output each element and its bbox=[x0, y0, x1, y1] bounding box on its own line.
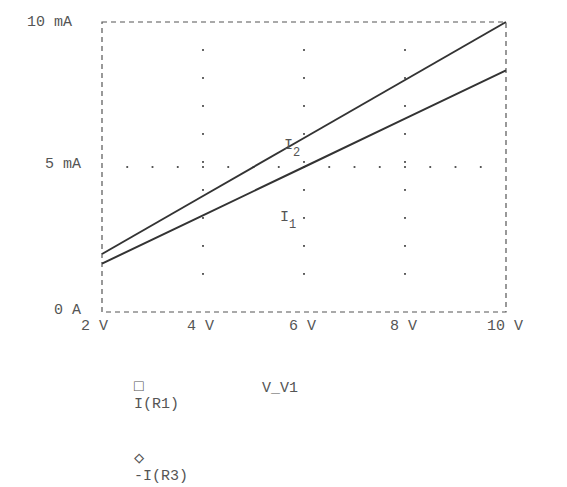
series-lines bbox=[102, 22, 506, 264]
grid-dot bbox=[404, 133, 406, 135]
grid-dot bbox=[303, 217, 305, 219]
grid-dot bbox=[404, 189, 406, 191]
legend-item-i-r1[interactable]: □ I(R1) bbox=[98, 379, 179, 430]
square-marker-icon: □ bbox=[134, 378, 144, 396]
grid-dot bbox=[303, 105, 305, 107]
grid-dot bbox=[354, 166, 356, 168]
grid-dot bbox=[303, 77, 305, 79]
grid-dot bbox=[303, 245, 305, 247]
series-line-i-r1 bbox=[102, 70, 506, 263]
grid-dot bbox=[404, 217, 406, 219]
grid-dot bbox=[202, 105, 204, 107]
grid-dot bbox=[202, 49, 204, 51]
diamond-marker-icon: ◇ bbox=[134, 449, 144, 468]
grid-dot bbox=[227, 166, 229, 168]
grid-dot bbox=[429, 166, 431, 168]
grid-dots bbox=[126, 49, 481, 275]
y-tick-label-10ma: 10 mA bbox=[27, 14, 72, 31]
grid-dot bbox=[278, 166, 280, 168]
legend-label-i-r1: I(R1) bbox=[134, 396, 179, 413]
grid-dot bbox=[303, 133, 305, 135]
annotation-i2-sub: 2 bbox=[293, 146, 300, 160]
series-line-neg-i-r3 bbox=[102, 22, 506, 254]
grid-dot bbox=[480, 166, 482, 168]
annotation-i1-main: I bbox=[280, 209, 289, 226]
grid-dot bbox=[328, 166, 330, 168]
annotation-i2-main: I bbox=[284, 137, 293, 154]
grid-dot bbox=[202, 166, 204, 168]
annotation-i1-sub: 1 bbox=[289, 218, 296, 232]
x-axis-title: V_V1 bbox=[262, 380, 298, 397]
annotation-i2: I2 bbox=[266, 120, 300, 154]
grid-dot bbox=[126, 166, 128, 168]
x-tick-label-2v: 2 V bbox=[81, 318, 108, 335]
y-tick-label-5ma: 5 mA bbox=[45, 156, 81, 173]
legend: □ I(R1) ◇ -I(R3) bbox=[98, 344, 188, 487]
grid-dot bbox=[177, 166, 179, 168]
x-tick-label-6v: 6 V bbox=[289, 318, 316, 335]
grid-dot bbox=[202, 245, 204, 247]
grid-dot bbox=[202, 77, 204, 79]
grid-dot bbox=[303, 189, 305, 191]
grid-dot bbox=[303, 273, 305, 275]
grid-dot bbox=[202, 217, 204, 219]
x-tick-label-10v: 10 V bbox=[487, 318, 523, 335]
grid-dot bbox=[404, 166, 406, 168]
grid-dot bbox=[404, 105, 406, 107]
grid-dot bbox=[202, 133, 204, 135]
grid-dot bbox=[152, 166, 154, 168]
legend-item-neg-i-r3[interactable]: ◇ -I(R3) bbox=[98, 451, 188, 487]
grid-dot bbox=[202, 273, 204, 275]
y-tick-label-0a: 0 A bbox=[54, 302, 81, 319]
grid-dot bbox=[455, 166, 457, 168]
grid-dot bbox=[404, 273, 406, 275]
grid-dot bbox=[202, 161, 204, 163]
annotation-i1: I1 bbox=[262, 192, 296, 226]
grid-dot bbox=[379, 166, 381, 168]
x-tick-label-4v: 4 V bbox=[187, 318, 214, 335]
grid-dot bbox=[202, 189, 204, 191]
grid-dot bbox=[303, 161, 305, 163]
grid-dot bbox=[404, 245, 406, 247]
grid-dot bbox=[404, 49, 406, 51]
grid-dot bbox=[303, 49, 305, 51]
legend-label-neg-i-r3: -I(R3) bbox=[134, 468, 188, 485]
grid-dot bbox=[404, 161, 406, 163]
x-tick-label-8v: 8 V bbox=[390, 318, 417, 335]
